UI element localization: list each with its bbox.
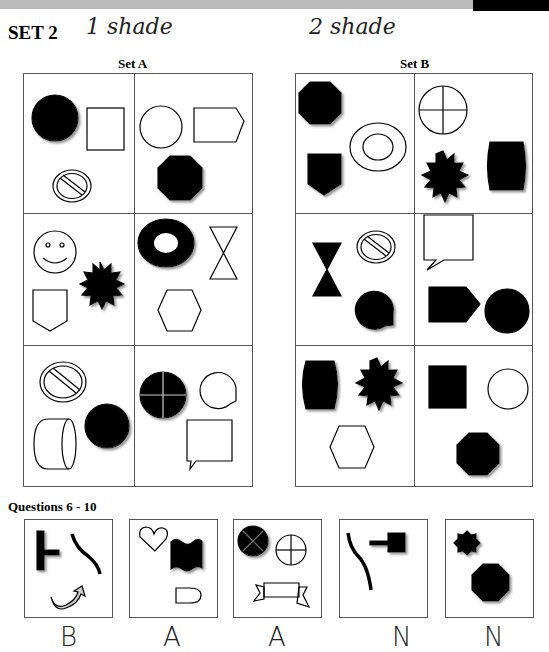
answer-question-7: A [163, 622, 181, 652]
answer-question-9: N [392, 622, 411, 652]
curved-arrow-icon [51, 586, 85, 609]
question-8-shapes [238, 526, 309, 607]
circle-cross-icon [276, 535, 306, 565]
wave-banner-icon [171, 540, 202, 572]
question-7-shapes [140, 527, 202, 603]
answer-question-10: N [484, 622, 503, 652]
curve-icon [72, 534, 100, 574]
heart-icon [140, 527, 168, 551]
plunger-icon [370, 533, 405, 552]
answer-question-6: B [60, 622, 77, 652]
curve-icon [348, 533, 371, 590]
answer-question-8: A [268, 622, 286, 652]
question-6-shapes [37, 531, 100, 609]
question-9-shapes [348, 533, 405, 590]
eight-point-star-icon [454, 531, 480, 555]
question-shapes-layer [0, 0, 549, 652]
ribbon-scroll-icon [254, 583, 309, 607]
d-shape-icon [176, 588, 201, 603]
t-bar-icon [37, 531, 59, 570]
black-octagon-icon [472, 564, 509, 601]
question-10-shapes [454, 531, 509, 601]
